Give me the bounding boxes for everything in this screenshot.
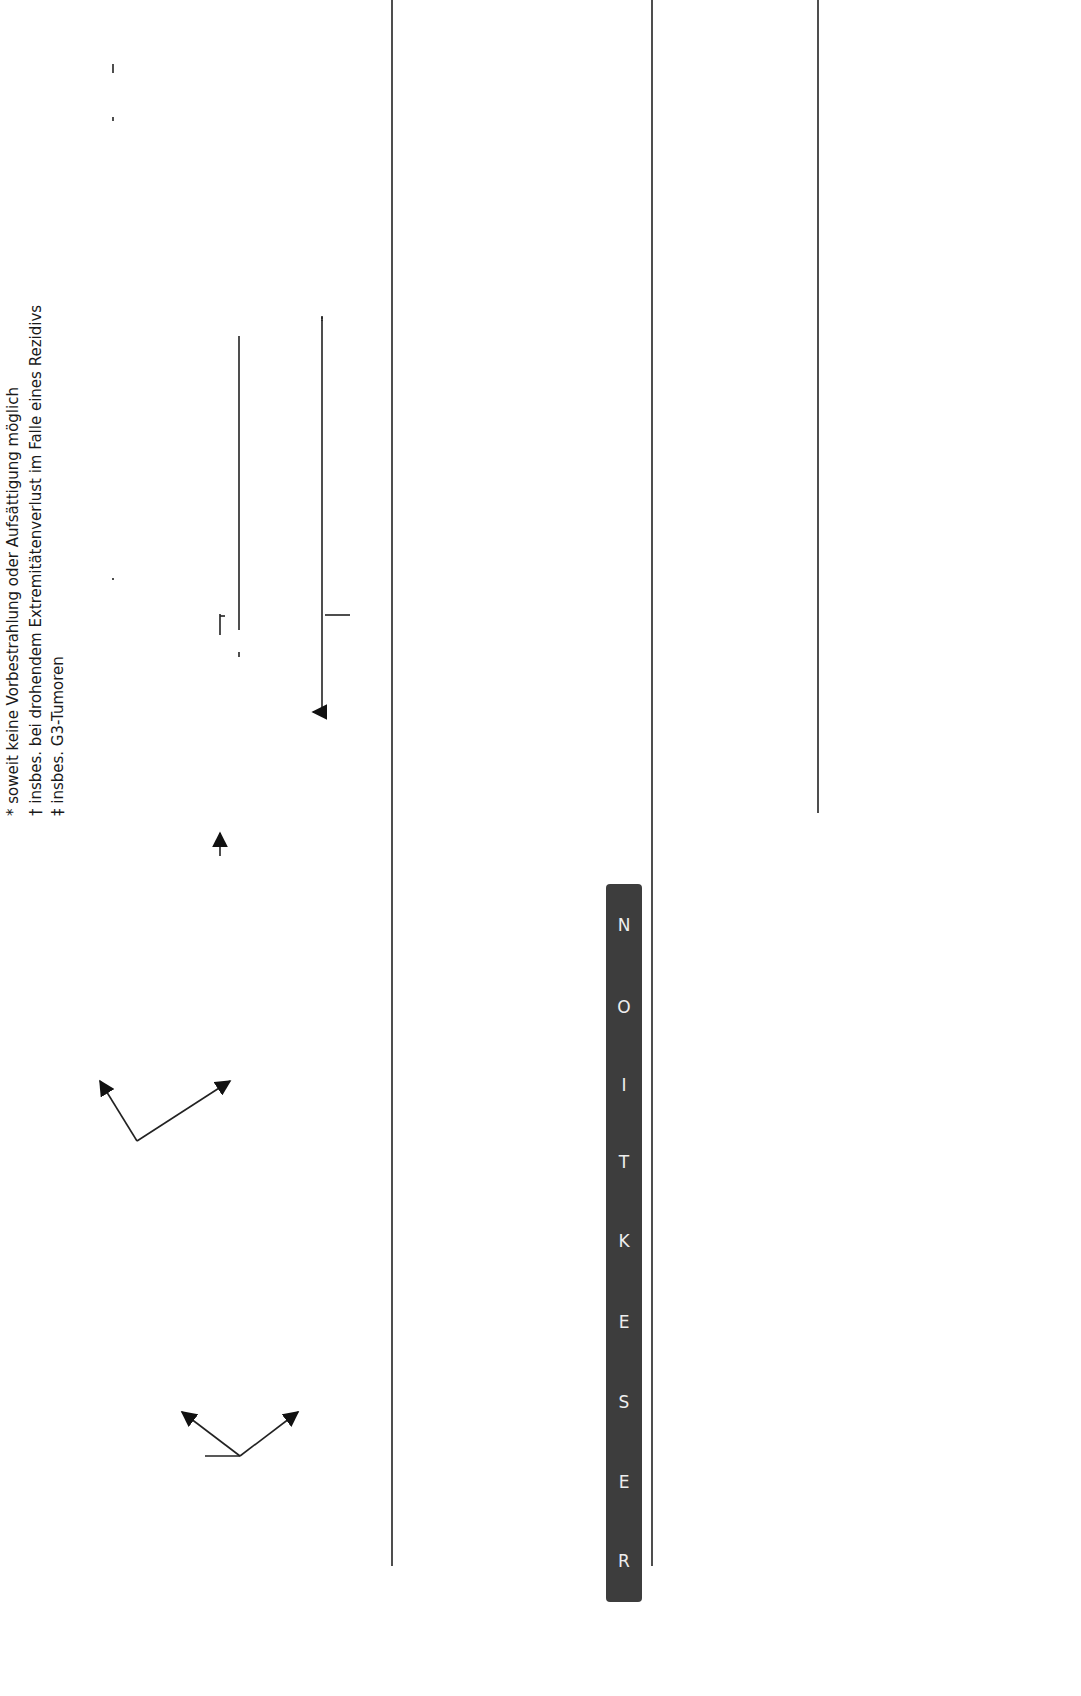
bar-letter: K (618, 1232, 629, 1252)
resektion-bar: R E S E K T I O N (606, 884, 642, 1602)
bar-letter: R (618, 1552, 630, 1572)
connector-lines (0, 0, 1081, 1696)
bar-letter: I (621, 1075, 626, 1095)
footnote-2: † insbes. bei drohendem Extremitätenverl… (25, 305, 48, 816)
footnotes: * soweit keine Vorbestrahlung oder Aufsä… (2, 305, 70, 816)
bar-letter: T (619, 1152, 629, 1172)
footnote-1: * soweit keine Vorbestrahlung oder Aufsä… (2, 305, 25, 816)
bar-letter: E (619, 1312, 630, 1332)
bar-letter: S (619, 1392, 630, 1412)
bar-letter: O (617, 997, 630, 1017)
flowchart-canvas: * soweit keine Vorbestrahlung oder Aufsä… (0, 0, 1081, 1696)
bar-letter: E (619, 1471, 630, 1491)
bar-letter: N (618, 915, 631, 935)
footnote-3: ‡ insbes. G3-Tumoren (47, 305, 70, 816)
